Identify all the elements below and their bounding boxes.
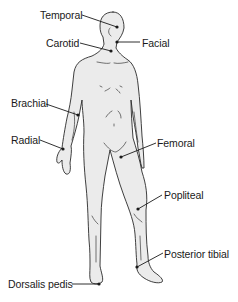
- label-carotid: Carotid: [46, 37, 79, 49]
- label-facial: Facial: [142, 37, 169, 49]
- femoral-point: [119, 155, 122, 158]
- shin-detail: [96, 236, 141, 262]
- facial-point: [115, 40, 118, 43]
- label-temporal: Temporal: [40, 9, 82, 21]
- label-brachial: Brachial: [11, 97, 48, 109]
- dorsalis-pedis-point: [97, 282, 100, 285]
- label-radial: Radial: [11, 134, 40, 146]
- posterior-tibial-point: [135, 265, 138, 268]
- body-outline: [57, 12, 163, 284]
- label-femoral: Femoral: [157, 137, 195, 149]
- radial-point: [61, 147, 64, 150]
- pulse-points-diagram: Temporal Carotid Facial Brachial Radial …: [0, 0, 238, 302]
- carotid-point: [109, 49, 112, 52]
- label-posterior-tibial: Posterior tibial: [164, 248, 229, 260]
- popliteal-point: [136, 207, 139, 210]
- label-popliteal: Popliteal: [164, 189, 203, 201]
- temporal-point: [115, 25, 118, 28]
- label-dorsalis-pedis: Dorsalis pedis: [8, 278, 73, 290]
- brachial-point: [76, 113, 79, 116]
- radial-leader: [40, 140, 63, 149]
